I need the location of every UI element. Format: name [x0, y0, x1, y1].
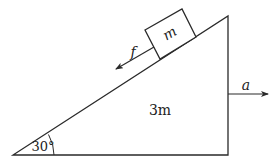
friction-label: f [129, 44, 138, 60]
angle-label: 30° [31, 139, 54, 154]
wedge-mass-text: 3m [149, 102, 171, 118]
acceleration-label: a [242, 77, 250, 93]
wedge-mass-label: 3m [149, 102, 171, 118]
incline-diagram: m f 3m a 30° [0, 0, 277, 163]
